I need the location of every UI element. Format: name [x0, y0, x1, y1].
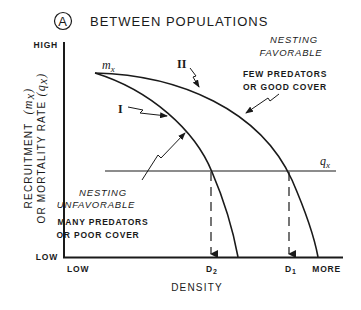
y-axis-title-line1: RECRUITMENT [23, 122, 34, 208]
favorable-desc-line2: OR GOOD COVER [243, 82, 327, 92]
favorable-annotation: NESTING FAVORABLE FEW PREDATORS OR GOOD … [243, 34, 327, 92]
figure-title: BETWEEN POPULATIONS [90, 14, 268, 29]
favorable-title-line2: FAVORABLE [260, 47, 323, 58]
unfavorable-annotation: NESTING UNFAVORABLE MANY PREDATORS OR PO… [56, 187, 148, 240]
curve-i-label: I [118, 102, 123, 116]
y-axis-title-line2: OR MORTALITY RATE [36, 101, 47, 224]
y-axis-low-label: LOW [36, 252, 58, 262]
svg-text:OR MORTALITY RATE(qx): OR MORTALITY RATE(qx) [34, 72, 50, 223]
d2-label: D2 [206, 264, 218, 275]
unfavorable-desc-line2: OR POOR COVER [56, 230, 139, 240]
unfavorable-title-line2: UNFAVORABLE [57, 199, 135, 210]
unfavorable-desc-line1: MANY PREDATORS [57, 217, 148, 227]
favorable-pointer [246, 94, 279, 113]
x-axis-more-label: MORE [312, 264, 341, 274]
svg-text:RECRUITMENT(mx): RECRUITMENT(mx) [21, 88, 37, 209]
figure-header: A BETWEEN POPULATIONS [55, 13, 269, 30]
unfavorable-pointer [142, 133, 185, 180]
recruitment-start-label: mx [102, 58, 115, 74]
curve-ii-pointer [190, 68, 199, 87]
y-axis-high-label: HIGH [34, 40, 58, 50]
mortality-rate-label: qx [320, 154, 330, 170]
favorable-title-line1: NESTING [270, 34, 318, 45]
d1-label: D1 [285, 264, 297, 275]
population-diagram: A BETWEEN POPULATIONS HIGH LOW LOW MORE … [0, 0, 361, 310]
x-axis-title: DENSITY [171, 282, 223, 293]
x-axis-low-label: LOW [67, 264, 89, 274]
y-axis-title: RECRUITMENT(mx) OR MORTALITY RATE(qx) [21, 72, 50, 223]
unfavorable-title-line1: NESTING [79, 187, 127, 198]
curve-ii-label: II [177, 57, 187, 71]
panel-letter: A [58, 14, 68, 29]
favorable-desc-line1: FEW PREDATORS [243, 69, 327, 79]
